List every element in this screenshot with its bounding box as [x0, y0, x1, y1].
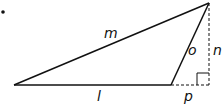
label-p: p — [183, 88, 193, 104]
label-m: m — [104, 25, 118, 41]
triangle-diagram: m o n l p — [0, 0, 224, 108]
label-n: n — [213, 42, 222, 58]
bullet-dot — [1, 10, 5, 14]
right-angle-marker — [197, 73, 209, 85]
label-o: o — [188, 42, 197, 58]
side-m — [14, 3, 209, 85]
label-l: l — [97, 88, 101, 104]
